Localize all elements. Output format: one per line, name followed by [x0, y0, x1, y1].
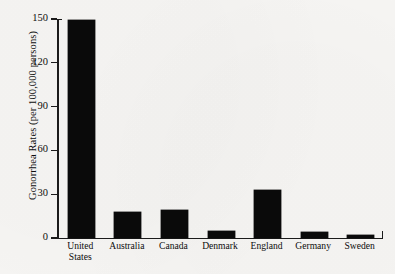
- x-axis-label-line: England: [243, 241, 290, 252]
- x-axis-label-line: Germany: [290, 241, 337, 252]
- x-axis-label-united-states: UnitedStates: [57, 241, 104, 262]
- x-axis-label-germany: Germany: [290, 241, 337, 252]
- x-axis-label-sweden: Sweden: [336, 241, 383, 252]
- x-axis-label-line: Australia: [104, 241, 151, 252]
- y-axis-tick-label: 0: [2, 232, 48, 243]
- y-axis-tick-label: 30: [2, 188, 48, 199]
- x-axis-label-line: United: [57, 241, 104, 252]
- plot-area: [57, 19, 383, 238]
- y-axis-tick-label: 150: [2, 13, 48, 24]
- y-axis-tick-label: 60: [2, 144, 48, 155]
- bar-australia: [114, 212, 141, 238]
- x-axis-label-line: Denmark: [197, 241, 244, 252]
- x-axis-label-line: Canada: [150, 241, 197, 252]
- x-axis-label-england: England: [243, 241, 290, 252]
- gonorrhea-rates-bar-chart: Gonorrhea Rates (per 100,000 persons) 03…: [0, 0, 395, 274]
- bar-canada: [161, 210, 188, 238]
- x-axis-label-line: Sweden: [336, 241, 383, 252]
- bar-sweden: [347, 235, 374, 238]
- bar-germany: [301, 232, 328, 238]
- x-axis-label-denmark: Denmark: [197, 241, 244, 252]
- y-axis-tick-group: 0306090120150: [0, 0, 57, 274]
- x-axis-label-australia: Australia: [104, 241, 151, 252]
- x-axis-label-line: States: [57, 252, 104, 263]
- bar-england: [254, 190, 281, 238]
- bar-united-states: [68, 20, 95, 238]
- x-axis-label-group: UnitedStatesAustraliaCanadaDenmarkEnglan…: [57, 241, 383, 271]
- x-axis-label-canada: Canada: [150, 241, 197, 252]
- bar-denmark: [208, 231, 235, 238]
- y-axis-tick-label: 90: [2, 101, 48, 112]
- y-axis-tick-label: 120: [2, 57, 48, 68]
